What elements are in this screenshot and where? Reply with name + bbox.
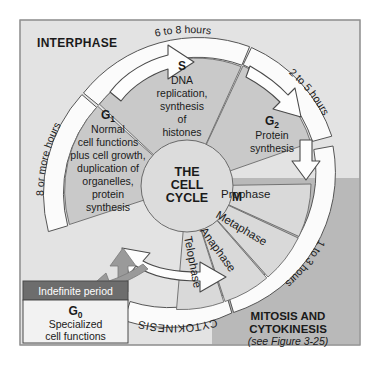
mitosis-stage-prophase: Prophase	[221, 188, 270, 200]
g0-desc-line-2: cell functions	[45, 330, 106, 342]
mitosis-figure-reference: (see Figure 3-25)	[248, 335, 329, 347]
phase-desc-g1-1: Normal	[91, 123, 125, 135]
mitosis-label: MITOSIS AND CYTOKINESIS (see Figure 3-25…	[248, 310, 329, 347]
phase-desc-s-1: DNA	[171, 74, 193, 86]
phase-desc-s-3: synthesis	[160, 100, 204, 112]
phase-desc-g2-2: synthesis	[250, 142, 294, 154]
g0-desc-line-1: Specialized	[49, 318, 103, 330]
cell-cycle-figure: 8 or more hours 6 to 8 hours 2 to 5 hour…	[0, 0, 374, 370]
phase-desc-g1-2: cell functions	[78, 136, 139, 148]
interphase-label: INTERPHASE	[37, 36, 117, 50]
phase-desc-g1-5: organelles,	[82, 175, 133, 187]
phase-desc-g1-6: protein	[92, 188, 124, 200]
phase-name-m: M	[232, 190, 242, 204]
cell-cycle-diagram: 8 or more hours 6 to 8 hours 2 to 5 hour…	[0, 0, 374, 370]
phase-desc-s-5: histones	[162, 126, 201, 138]
g0-box: Indefinite period G0 Specialized cell fu…	[23, 281, 128, 343]
center-title-line-1: THE	[175, 165, 200, 179]
mitosis-label-line-2: CYTOKINESIS	[249, 323, 327, 335]
phase-name-s: S	[178, 59, 186, 73]
phase-desc-s-2: replication,	[157, 87, 208, 99]
center-title-line-3: CYCLE	[166, 191, 208, 205]
center-title-line-2: CELL	[171, 178, 204, 192]
phase-desc-g1-7: synthesis	[86, 201, 130, 213]
g0-header-label: Indefinite period	[38, 285, 113, 297]
mitosis-label-line-1: MITOSIS AND	[251, 310, 326, 322]
phase-desc-g2-1: Protein	[255, 129, 288, 141]
phase-desc-s-4: of	[178, 113, 187, 125]
phase-desc-g1-4: duplication of	[77, 162, 139, 174]
phase-desc-g1-3: plus cell growth,	[70, 149, 145, 161]
